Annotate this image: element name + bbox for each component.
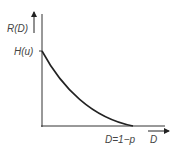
hu-label: H(u) bbox=[14, 46, 33, 57]
x-axis-label: D bbox=[150, 134, 157, 145]
rd-curve bbox=[42, 51, 133, 126]
y-axis-label: R(D) bbox=[7, 23, 28, 34]
rate-distortion-diagram: R(D) H(u) D=1−p D bbox=[0, 0, 178, 154]
x-intercept-label: D=1−p bbox=[105, 134, 135, 145]
